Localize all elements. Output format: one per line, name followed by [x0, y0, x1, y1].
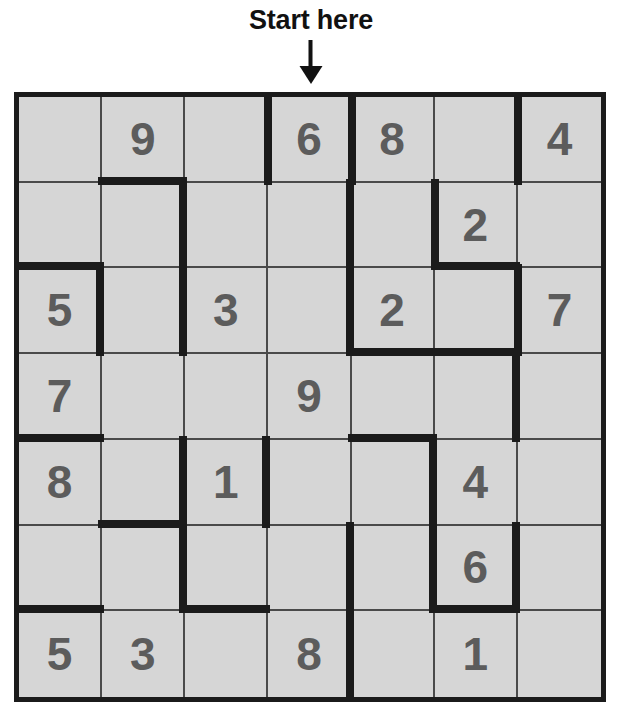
grid-cell-r7c2[interactable]: 3 — [102, 611, 185, 697]
cell-value: 3 — [213, 287, 239, 333]
grid-cell-r3c5[interactable]: 2 — [352, 268, 435, 354]
grid-cell-r2c6[interactable]: 2 — [435, 183, 518, 269]
grid-cell-r5c7[interactable] — [518, 440, 601, 526]
grid-cell-r3c7[interactable]: 7 — [518, 268, 601, 354]
grid-cell-r4c4[interactable]: 9 — [268, 354, 351, 440]
grid-cell-r6c2[interactable] — [102, 526, 185, 612]
grid-cell-r5c5[interactable] — [352, 440, 435, 526]
grid-cell-r6c1[interactable] — [19, 526, 102, 612]
cell-value: 5 — [47, 287, 73, 333]
arrow-down-icon — [298, 40, 324, 84]
grid-cell-r2c1[interactable] — [19, 183, 102, 269]
grid-cell-r2c7[interactable] — [518, 183, 601, 269]
grid-cell-r6c3[interactable] — [185, 526, 268, 612]
grid-cell-r1c7[interactable]: 4 — [518, 97, 601, 183]
cell-value: 2 — [379, 287, 405, 333]
cell-value: 1 — [462, 631, 488, 677]
cell-value: 6 — [462, 544, 488, 590]
grid-cell-r7c3[interactable] — [185, 611, 268, 697]
grid-cell-r7c5[interactable] — [352, 611, 435, 697]
grid-cell-r5c4[interactable] — [268, 440, 351, 526]
grid-cell-r2c3[interactable] — [185, 183, 268, 269]
cell-value: 9 — [296, 373, 322, 419]
grid-cell-r1c2[interactable]: 9 — [102, 97, 185, 183]
grid-cell-r5c2[interactable] — [102, 440, 185, 526]
cell-value: 9 — [130, 116, 156, 162]
cell-value: 2 — [462, 202, 488, 248]
grid-cell-r6c4[interactable] — [268, 526, 351, 612]
grid-cell-r3c1[interactable]: 5 — [19, 268, 102, 354]
cell-value: 3 — [130, 631, 156, 677]
grid-cell-r4c2[interactable] — [102, 354, 185, 440]
cell-value: 4 — [547, 116, 573, 162]
grid-cell-r1c4[interactable]: 6 — [268, 97, 351, 183]
grid-cell-r3c6[interactable] — [435, 268, 518, 354]
start-here-label: Start here — [236, 4, 386, 36]
grid-cell-r7c4[interactable]: 8 — [268, 611, 351, 697]
cell-value: 4 — [462, 459, 488, 505]
grid-cell-r6c7[interactable] — [518, 526, 601, 612]
grid-cell-r1c3[interactable] — [185, 97, 268, 183]
cell-value: 8 — [296, 631, 322, 677]
grid-cell-r5c1[interactable]: 8 — [19, 440, 102, 526]
start-here-annotation: Start here — [236, 4, 386, 84]
grid-cell-r4c6[interactable] — [435, 354, 518, 440]
cell-value: 8 — [379, 116, 405, 162]
grid-cell-r3c3[interactable]: 3 — [185, 268, 268, 354]
cell-value: 7 — [47, 373, 73, 419]
grid-cell-r2c4[interactable] — [268, 183, 351, 269]
grid-cell-r7c7[interactable] — [518, 611, 601, 697]
cell-value: 5 — [47, 631, 73, 677]
puzzle-grid: 9684253277981465381 — [14, 92, 606, 702]
grid-cell-r3c2[interactable] — [102, 268, 185, 354]
grid-cell-r4c5[interactable] — [352, 354, 435, 440]
cell-value: 1 — [213, 459, 239, 505]
cell-value: 6 — [296, 116, 322, 162]
grid-cell-r7c6[interactable]: 1 — [435, 611, 518, 697]
grid-cell-r1c1[interactable] — [19, 97, 102, 183]
cell-value: 8 — [47, 459, 73, 505]
grid-cell-r6c5[interactable] — [352, 526, 435, 612]
grid-cell-r5c3[interactable]: 1 — [185, 440, 268, 526]
cell-value: 7 — [547, 287, 573, 333]
grid-cell-r6c6[interactable]: 6 — [435, 526, 518, 612]
grid-cell-r5c6[interactable]: 4 — [435, 440, 518, 526]
grid-cell-r4c7[interactable] — [518, 354, 601, 440]
grid-cell-r1c5[interactable]: 8 — [352, 97, 435, 183]
grid-cell-r2c2[interactable] — [102, 183, 185, 269]
grid-cell-r3c4[interactable] — [268, 268, 351, 354]
grid-cell-r4c1[interactable]: 7 — [19, 354, 102, 440]
grid-cell-r7c1[interactable]: 5 — [19, 611, 102, 697]
grid-cell-r2c5[interactable] — [352, 183, 435, 269]
grid-cell-r1c6[interactable] — [435, 97, 518, 183]
grid-cell-r4c3[interactable] — [185, 354, 268, 440]
